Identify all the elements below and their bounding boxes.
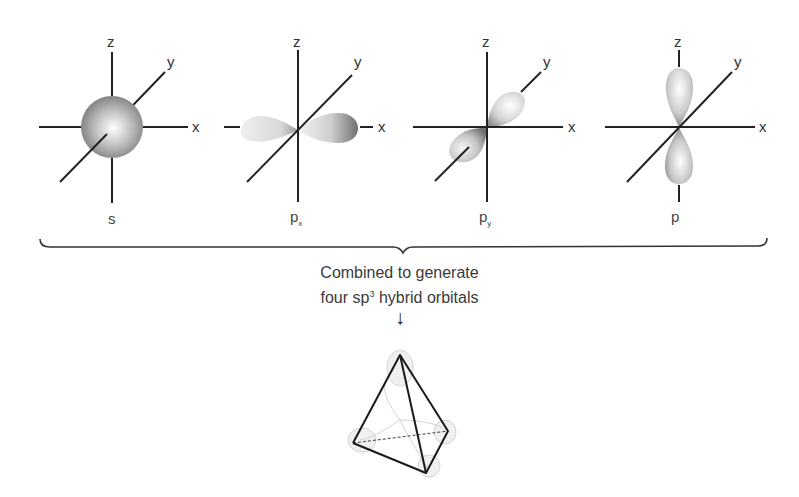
py-orbital-panel: z y x py [413,33,576,228]
orbital-label-px: px [290,208,302,228]
x-axis-label: x [759,118,767,135]
y-axis-label: y [543,53,551,70]
y-axis-label: y [734,53,742,70]
sp3-hybridization-diagram: z y x s z y x px z y x py [0,0,799,497]
s-orbital-panel: z y x s [39,33,200,227]
hybrid-lobes-ghost [348,350,456,477]
y-axis-line-front [60,134,107,182]
down-arrow-icon: ↓ [390,306,410,329]
orbital-label-s: s [108,210,116,227]
caption-line-2: four sp3 hybrid orbitals [0,284,799,308]
pz-orbital-panel: z y x pz [605,33,767,228]
x-axis-label: x [568,118,576,135]
z-axis-label: z [107,33,115,50]
orbital-label-pz: pz [671,208,683,228]
x-axis-label: x [192,118,200,135]
py-lower-lobe [449,128,487,162]
caption-line-1: Combined to generate [0,262,799,283]
caption-line-2-prefix: four sp [321,289,370,306]
sp3-tetrahedron [348,350,456,477]
x-axis-label: x [378,118,386,135]
s-orbital-sphere [81,96,143,158]
orbital-label-py: py [479,208,491,228]
y-axis-line-upper [521,72,541,92]
z-axis-label: z [674,33,682,50]
z-axis-label: z [293,33,301,50]
px-orbital-panel: z y x px [224,33,386,228]
caption-line-2-suffix: hybrid orbitals [374,289,478,306]
z-axis-label: z [482,33,490,50]
py-upper-lobe [487,92,525,127]
combining-brace [40,238,767,253]
px-right-lobe [298,113,358,143]
y-axis-label: y [167,53,175,70]
y-axis-label: y [354,53,362,70]
